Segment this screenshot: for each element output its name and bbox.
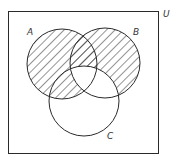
venn-diagram: U A B C	[0, 0, 175, 158]
universe-label: U	[163, 9, 170, 19]
set-b-label: B	[133, 27, 139, 37]
set-c-label: C	[107, 131, 114, 141]
set-a-label: A	[26, 27, 33, 37]
